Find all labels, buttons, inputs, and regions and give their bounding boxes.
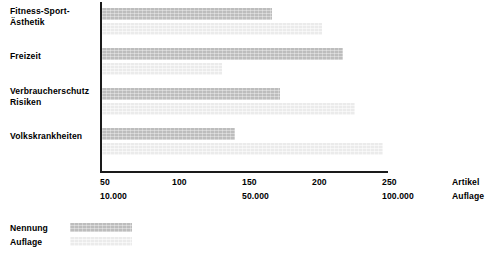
bar-auflage-freizeit <box>102 63 222 75</box>
category-label-volkskrankheiten: Volkskrankheiten <box>10 131 102 142</box>
legend-label-nennung: Nennung <box>10 223 48 233</box>
tick-articles-200: 200 <box>312 177 327 187</box>
bar-nennung-verbraucherschutz-risiken <box>102 88 280 100</box>
tick-circulation-10000: 10.000 <box>100 191 127 201</box>
bar-auflage-volkskrankheiten <box>102 143 383 155</box>
tick-circulation-50000: 50.000 <box>242 191 269 201</box>
tick-circulation-100000: 100.000 <box>382 191 414 201</box>
tick-articles-100: 100 <box>172 177 187 187</box>
legend-swatch-nennung <box>70 223 132 232</box>
bar-nennung-freizeit <box>102 48 343 60</box>
category-label-freizeit: Freizeit <box>10 51 102 62</box>
bar-chart: Fitness-Sport- Ästhetik Freizeit Verbrau… <box>0 0 490 255</box>
bar-nennung-volkskrankheiten <box>102 128 235 140</box>
legend-label-auflage: Auflage <box>10 237 42 247</box>
tick-articles-50: 50 <box>100 177 110 187</box>
bar-auflage-fitness-sport-aesthetik <box>102 23 322 35</box>
bar-nennung-fitness-sport-aesthetik <box>102 8 272 20</box>
legend-swatch-auflage <box>70 237 132 246</box>
bar-auflage-verbraucherschutz-risiken <box>102 103 355 115</box>
category-label-verbraucherschutz-risiken: Verbraucherschutz Risiken <box>10 86 102 107</box>
plot-area: Fitness-Sport- Ästhetik Freizeit Verbrau… <box>0 0 490 175</box>
tick-articles-150: 150 <box>242 177 257 187</box>
value-axis-line <box>100 171 388 173</box>
axis-name-artikel: Artikel <box>452 177 479 187</box>
category-label-fitness-sport-aesthetik: Fitness-Sport- Ästhetik <box>10 6 102 27</box>
tick-articles-250: 250 <box>382 177 397 187</box>
axis-name-auflage: Auflage <box>452 191 484 201</box>
